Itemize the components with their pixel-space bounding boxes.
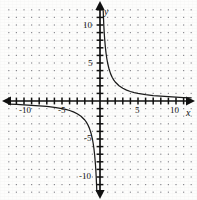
y-tick-label-neg10: -10 [79,172,91,181]
y-tick-label-5: 5 [88,59,93,68]
coordinate-plane-svg [0,0,197,200]
x-tick-label-neg10: -10 [19,106,31,115]
curve-branch-quadrant-i [103,11,191,98]
y-axis-label: y [104,7,108,17]
x-axis-label: x [186,108,190,118]
y-tick-label-neg5: -5 [84,134,92,143]
x-tick-label-10: 10 [170,106,179,115]
x-tick-label-5: 5 [135,106,140,115]
x-tick-label-neg5: -5 [58,106,66,115]
y-tick-label-10: 10 [83,21,92,30]
graph-figure: y x -10 -5 5 10 10 5 -5 -10 [0,0,197,200]
